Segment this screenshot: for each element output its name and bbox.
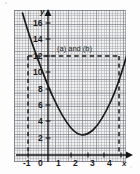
y-axis-arrow-icon	[45, 9, 52, 16]
y-tick-label-4: 4	[38, 117, 43, 126]
y-tick-label-14: 14	[33, 35, 42, 44]
graph-figure: 16 14 12 10 8 6 4 2 -1 0 1 2 3 4 y x (a)…	[0, 0, 140, 174]
solutions-annotation: (a) and (b)	[57, 45, 92, 53]
x-tick-label-4: 4	[107, 159, 112, 168]
y-tick-label-2: 2	[38, 134, 43, 143]
x-tick-label--1: -1	[23, 159, 31, 168]
y-tick-label-6: 6	[38, 101, 43, 110]
y-tick-label-10: 10	[33, 68, 42, 77]
x-axis-arrow-icon	[126, 152, 133, 159]
x-tick-label-2: 2	[73, 159, 78, 168]
y-tick-label-8: 8	[38, 85, 43, 94]
x-tick-label-1: 1	[56, 159, 61, 168]
x-axis-label: x	[122, 160, 126, 168]
axes-group	[16, 9, 133, 162]
x-tick-label-0: 0	[38, 159, 43, 168]
plot-canvas	[0, 0, 140, 174]
x-tick-label-3: 3	[90, 159, 95, 168]
y-tick-label-16: 16	[33, 19, 42, 28]
y-axis-label: y	[40, 8, 44, 16]
y-tick-label-12: 12	[33, 52, 42, 61]
